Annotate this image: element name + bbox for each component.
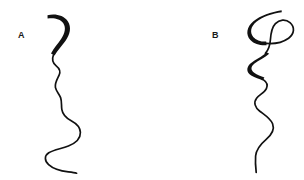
panel-label-b: B [212,30,219,40]
figure-canvas: A B [0,0,304,180]
panel-label-a: A [18,30,25,40]
figure-background [0,0,304,180]
figure-container: A B [0,0,304,180]
